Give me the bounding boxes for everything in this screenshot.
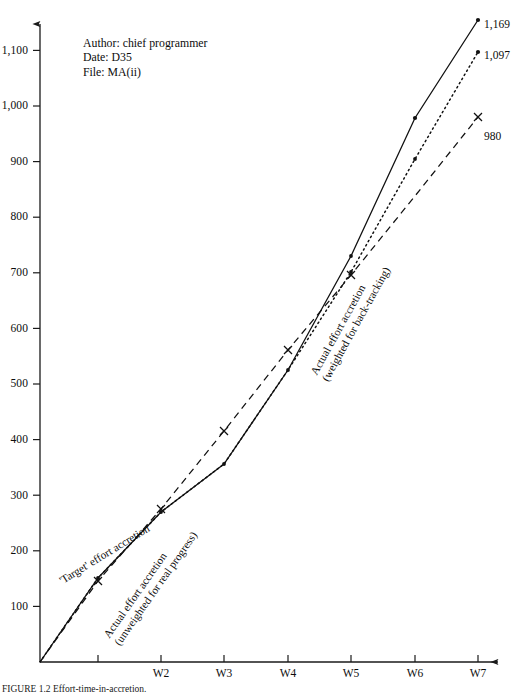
chart-annotation-block: Author: chief programmer Date: D35 File:… xyxy=(83,36,207,79)
annotation-file: File: MA(ii) xyxy=(83,65,207,79)
end-label-unweighted: 1,169 xyxy=(484,18,510,30)
figure-caption: FIGURE 1.2 Effort-time-in-accretion. xyxy=(2,684,146,694)
effort-accretion-chart: 100 200 300 400 500 600 700 800 900 1,00… xyxy=(0,0,511,696)
y-tick-label: 200 xyxy=(0,544,28,556)
y-tick-label: 900 xyxy=(0,155,28,167)
x-tick-label-w7: W7 xyxy=(458,667,498,679)
y-tick-label: 100 xyxy=(0,600,28,612)
series-unweighted xyxy=(40,18,480,662)
x-tick-label-w2: W2 xyxy=(141,667,181,679)
x-tick-label-w6: W6 xyxy=(395,667,435,679)
y-tick-label: 800 xyxy=(0,210,28,222)
y-tick-label: 400 xyxy=(0,433,28,445)
y-tick-label: 500 xyxy=(0,377,28,389)
end-label-weighted: 1,097 xyxy=(484,49,510,61)
annotation-author: Author: chief programmer xyxy=(83,36,207,50)
y-tick-label: 300 xyxy=(0,489,28,501)
x-tick-label-w5: W5 xyxy=(331,667,371,679)
y-tick-label: 700 xyxy=(0,266,28,278)
annotation-date: Date: D35 xyxy=(83,50,207,64)
x-tick-label-w4: W4 xyxy=(268,667,308,679)
x-tick-marks xyxy=(98,655,478,662)
chart-plot-area xyxy=(0,0,511,696)
x-tick-label-w3: W3 xyxy=(204,667,244,679)
y-tick-label: 600 xyxy=(0,322,28,334)
end-label-target: 980 xyxy=(484,130,501,142)
y-tick-label: 1,000 xyxy=(0,99,28,111)
y-tick-label: 1,100 xyxy=(0,44,28,56)
y-tick-marks xyxy=(33,50,40,606)
series-target xyxy=(40,113,482,662)
